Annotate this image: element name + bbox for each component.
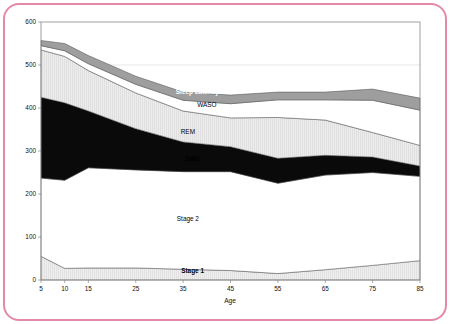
x-tick-label: 65: [322, 285, 330, 292]
y-tick-label: 300: [25, 147, 36, 154]
x-tick-label: 10: [61, 285, 69, 292]
stacked-area-chart: 0100200300400500600 5101525354555657585 …: [0, 0, 450, 324]
x-tick-label: 55: [274, 285, 282, 292]
x-tick-label: 45: [227, 285, 235, 292]
series-label-sws: SWS: [185, 155, 200, 162]
area-stage-2: [41, 168, 420, 274]
chart-figure: 0100200300400500600 5101525354555657585 …: [0, 0, 450, 324]
series-label-stage-1: Stage 1: [181, 267, 204, 275]
series-label-stage-2: Stage 2: [177, 215, 199, 223]
series-label-waso: WASO: [197, 101, 216, 108]
x-tick-label: 25: [132, 285, 140, 292]
series-label-sleep-latency: Sleep Latency: [176, 88, 219, 96]
series-label-rem: REM: [181, 128, 195, 135]
x-tick-label: 15: [85, 285, 93, 292]
y-tick-label: 200: [25, 190, 36, 197]
y-tick-label: 400: [25, 104, 36, 111]
x-axis: 5101525354555657585: [39, 280, 424, 292]
y-tick-label: 600: [25, 18, 36, 25]
x-tick-label: 35: [180, 285, 188, 292]
y-tick-label: 500: [25, 61, 36, 68]
x-tick-label: 5: [39, 285, 43, 292]
y-axis: 0100200300400500600: [25, 18, 41, 283]
y-tick-label: 100: [25, 233, 36, 240]
x-tick-label: 75: [369, 285, 377, 292]
x-axis-title: Age: [224, 297, 236, 305]
x-tick-label: 85: [416, 285, 424, 292]
y-tick-label: 0: [32, 276, 36, 283]
